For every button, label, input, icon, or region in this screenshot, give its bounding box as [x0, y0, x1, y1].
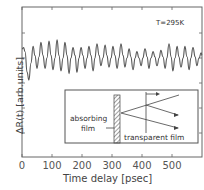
inset-label-absorbing: absorbing	[70, 114, 107, 123]
inset-label-transparent: transparent film	[124, 133, 184, 142]
x-tick-400: 400	[132, 160, 151, 171]
x-tick-200: 200	[72, 160, 91, 171]
inset-label-film: film	[81, 124, 95, 133]
x-tick-100: 100	[42, 160, 61, 171]
x-tick-0: 0	[19, 160, 25, 171]
y-axis-title: ΔR(t) [arb.units]	[14, 41, 25, 151]
data-line	[22, 40, 202, 80]
temperature-label: T=295K	[156, 19, 184, 27]
x-tick-300: 300	[102, 160, 121, 171]
x-tick-500: 500	[162, 160, 181, 171]
x-axis-title: Time delay [psec]	[63, 173, 152, 184]
absorbing-film-hatch	[114, 95, 120, 143]
